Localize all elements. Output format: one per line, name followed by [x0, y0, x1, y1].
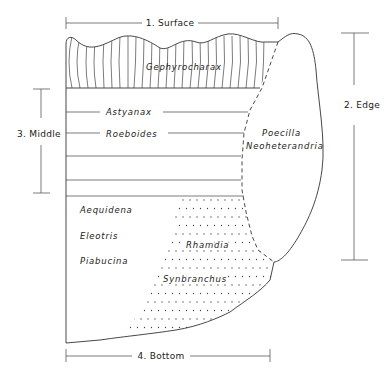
- species-neoheterandria: Neoheterandria: [246, 141, 324, 151]
- edge-dimension-bracket: [341, 33, 369, 260]
- middle-dimension-bracket: [33, 89, 50, 193]
- pond-outline: [66, 33, 323, 343]
- species-poecilla: Poecilla: [262, 128, 301, 138]
- bottom-zone-label: 4. Bottom: [137, 351, 184, 361]
- habitat-zonation-diagram: 1. Surface Gephyrocharax Astyanax Roeboi…: [0, 0, 390, 372]
- species-rhamdia: Rhamdia: [186, 240, 229, 250]
- edge-zone-label: 2. Edge: [344, 100, 380, 110]
- species-astyanax: Astyanax: [105, 107, 152, 117]
- species-aequidena: Aequidena: [79, 205, 133, 215]
- surface-zone-label: 1. Surface: [146, 18, 195, 28]
- species-piabucina: Piabucina: [80, 256, 128, 266]
- species-eleotris: Eleotris: [80, 231, 118, 241]
- species-gephyrocharax: Gephyrocharax: [146, 62, 222, 72]
- species-roeboides: Roeboides: [106, 129, 158, 139]
- middle-zone-label: 3. Middle: [17, 129, 61, 139]
- bottom-stipple: [119, 199, 278, 336]
- species-synbranchus: Synbranchus: [163, 274, 227, 284]
